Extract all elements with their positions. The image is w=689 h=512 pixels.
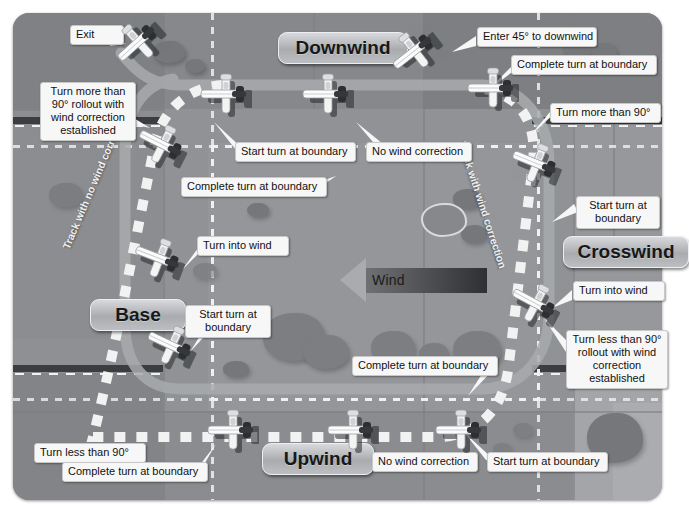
aircraft-ac-upwind-2 <box>325 409 379 455</box>
aircraft-ac-upwind-3 <box>433 409 487 455</box>
aircraft-ac-downwind-1 <box>198 73 252 119</box>
callout-complete-turn-boundary-up: Complete turn at boundary <box>62 462 208 482</box>
aircraft-ac-downwind-3 <box>465 67 519 113</box>
callout-complete-turn-boundary-nw: Complete turn at boundary <box>181 177 327 197</box>
callout-turn-less-90: Turn less than 90° <box>34 443 146 463</box>
leg-label-crosswind: Crosswind <box>563 236 689 268</box>
callout-turn-into-wind-base: Turn into wind <box>197 236 289 256</box>
callout-start-turn-boundary-base: Start turn at boundary <box>185 305 271 338</box>
callout-no-wind-correction-dw: No wind correction <box>366 142 472 162</box>
callout-enter-45-downwind: Enter 45° to downwind <box>477 27 597 47</box>
callout-complete-turn-boundary-se: Complete turn at boundary <box>352 356 498 376</box>
aircraft-ac-upwind-1 <box>205 409 259 455</box>
wind-bar: Wind <box>366 268 487 293</box>
wind-label: Wind <box>372 272 405 288</box>
wind-indicator: Wind <box>340 258 487 302</box>
callout-turn-less-90-rollout: Turn less than 90° rollout with wind cor… <box>566 330 668 389</box>
callout-turn-into-wind-cw: Turn into wind <box>573 281 665 301</box>
wind-arrow-icon <box>340 258 366 302</box>
callout-start-turn-boundary-cw: Start turn at boundary <box>576 196 660 229</box>
callout-turn-more-90-rollout: Turn more than 90° rollout with wind cor… <box>40 82 136 141</box>
callout-complete-turn-boundary-ne: Complete turn at boundary <box>511 55 657 75</box>
callout-start-turn-boundary-up: Start turn at boundary <box>487 452 608 472</box>
aircraft-ac-downwind-2 <box>300 73 354 119</box>
callout-start-turn-boundary-dw: Start turn at boundary <box>235 142 356 162</box>
callout-turn-more-90-cw: Turn more than 90° <box>550 103 661 123</box>
